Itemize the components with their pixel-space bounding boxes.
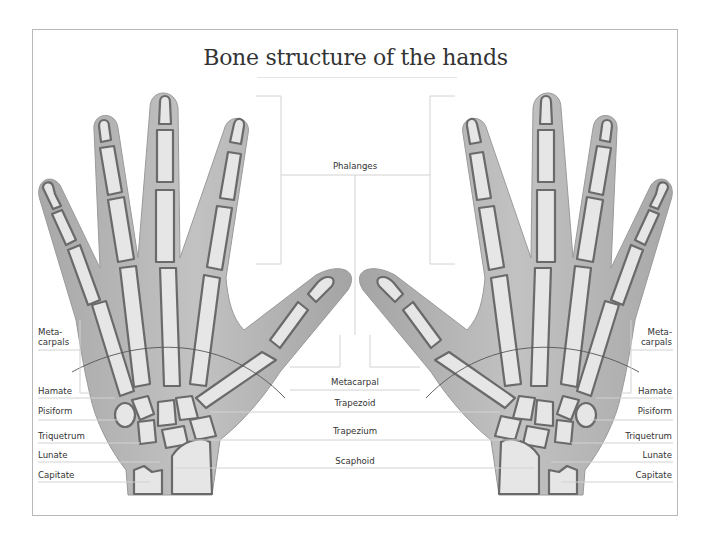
label-metacarpal: Metacarpal [290, 377, 420, 387]
label-left-capitate: Capitate [38, 470, 74, 480]
label-left-metacarpals-line1: Meta- [38, 327, 69, 337]
label-right-metacarpals: Meta- carpals [641, 327, 672, 347]
label-right-capitate: Capitate [636, 470, 672, 480]
label-right-triquetrum: Triquetrum [625, 431, 672, 441]
label-right-lunate: Lunate [643, 450, 672, 460]
label-left-hamate: Hamate [38, 386, 72, 396]
label-left-metacarpals: Meta- carpals [38, 327, 69, 347]
label-left-triquetrum: Triquetrum [38, 431, 85, 441]
label-left-metacarpals-line2: carpals [38, 337, 69, 347]
label-right-hamate: Hamate [638, 386, 672, 396]
label-right-metacarpals-line2: carpals [641, 337, 672, 347]
label-phalanges: Phalanges [290, 161, 420, 171]
label-right-pisiform: Pisiform [638, 406, 672, 416]
label-left-pisiform: Pisiform [38, 406, 72, 416]
label-scaphoid: Scaphoid [290, 456, 420, 466]
label-left-lunate: Lunate [38, 450, 67, 460]
label-right-metacarpals-line1: Meta- [641, 327, 672, 337]
label-trapezoid: Trapezoid [290, 398, 420, 408]
label-trapezium: Trapezium [290, 426, 420, 436]
